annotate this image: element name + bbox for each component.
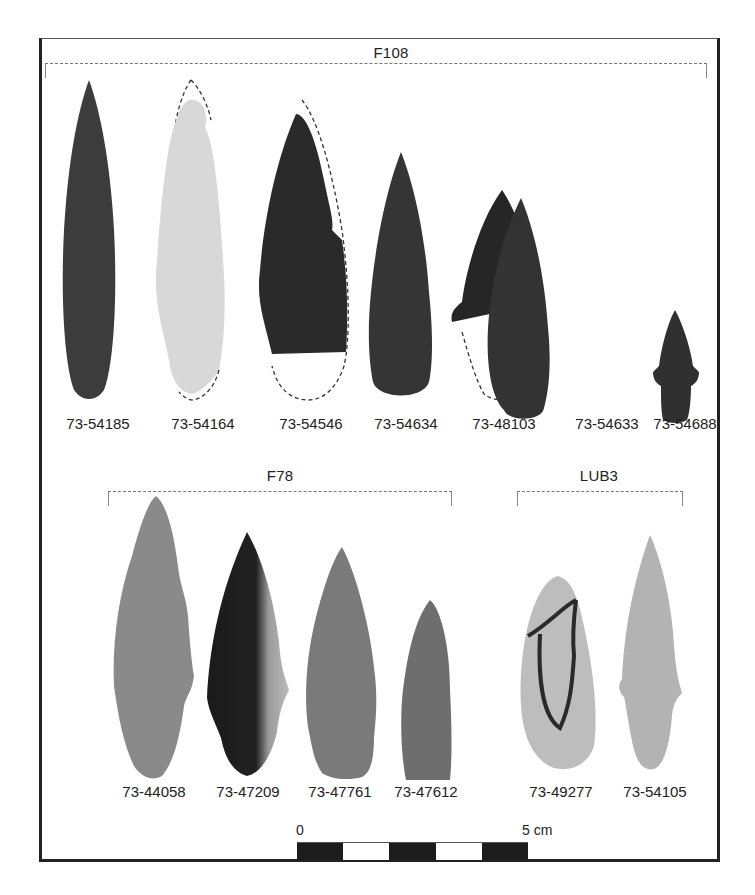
projectile-point-icon (651, 310, 701, 422)
scale-bar (297, 842, 528, 860)
projectile-point-icon (618, 535, 684, 771)
artifact-73-54633 (482, 198, 552, 422)
group-label-lub3: LUB3 (580, 467, 618, 484)
projectile-point-icon (518, 576, 600, 772)
catalog-label: 73-47761 (308, 783, 371, 800)
artifact-73-54634 (367, 152, 435, 402)
projectile-point-icon (153, 80, 229, 402)
projectile-point-icon (482, 198, 552, 422)
catalog-label: 73-47209 (216, 783, 279, 800)
catalog-label: 73-54546 (279, 415, 342, 432)
artifact-73-47761 (304, 547, 380, 779)
catalog-label: 73-47612 (394, 783, 457, 800)
projectile-point-icon (367, 152, 435, 402)
group-label-f78: F78 (267, 467, 293, 484)
artifact-73-54546 (256, 100, 352, 402)
projectile-point-icon (304, 547, 380, 779)
scale-end-label: 5 cm (522, 822, 552, 838)
catalog-label: 73-54105 (623, 783, 686, 800)
projectile-point-icon (112, 496, 196, 780)
group-bracket-lub3 (517, 491, 683, 506)
artifact-73-54164 (153, 80, 229, 402)
scale-segment (297, 843, 343, 860)
scale-segment (389, 843, 435, 860)
projectile-point-icon (398, 600, 454, 782)
catalog-label: 73-48103 (472, 415, 535, 432)
catalog-label: 73-54634 (374, 415, 437, 432)
artifact-73-54688 (651, 310, 701, 422)
catalog-label: 73-54688 (653, 415, 716, 432)
scale-segment (436, 843, 482, 860)
group-bracket-f108 (45, 63, 707, 78)
scale-segment (482, 843, 528, 860)
artifact-73-54105 (618, 535, 684, 771)
projectile-point-icon (207, 532, 291, 778)
scale-start-label: 0 (296, 822, 304, 838)
artifact-73-47612 (398, 600, 454, 782)
artifact-73-47209 (207, 532, 291, 778)
projectile-point-icon (60, 80, 118, 400)
catalog-label: 73-49277 (529, 783, 592, 800)
catalog-label: 73-54164 (171, 415, 234, 432)
artifact-73-44058 (112, 496, 196, 780)
artifact-73-49277 (518, 576, 600, 772)
catalog-label: 73-44058 (122, 783, 185, 800)
group-label-f108: F108 (374, 44, 409, 61)
artifact-73-54185 (60, 80, 118, 400)
scale-segment (343, 843, 389, 860)
projectile-point-icon (256, 100, 352, 402)
catalog-label: 73-54185 (66, 415, 129, 432)
catalog-label: 73-54633 (575, 415, 638, 432)
